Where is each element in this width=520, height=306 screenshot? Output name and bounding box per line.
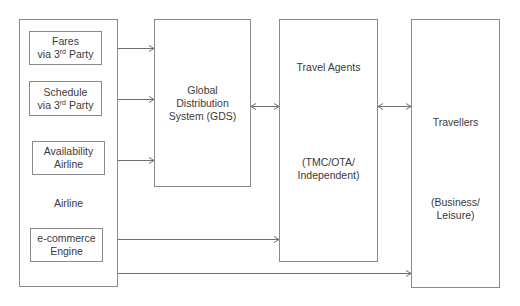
connectors [0,0,520,306]
